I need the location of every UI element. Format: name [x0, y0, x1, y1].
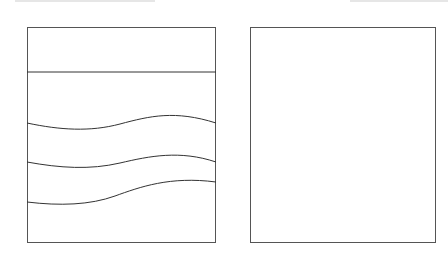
reflector-3	[27, 155, 216, 167]
reflector-2	[27, 115, 216, 129]
depth-model-reflectors	[27, 72, 216, 204]
seismic-frame	[251, 28, 436, 243]
depth-model-frame	[28, 28, 216, 243]
reflector-4	[27, 180, 216, 204]
diagram-canvas	[0, 0, 448, 255]
